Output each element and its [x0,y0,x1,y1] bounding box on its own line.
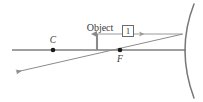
ray-diagram-figure: 1 Object C F [0,0,203,102]
object-label: Object [87,22,114,33]
point-dot-c [51,48,56,53]
focal-point-label: F [116,54,123,64]
ray-diagram-canvas: 1 Object C F [0,0,203,102]
center-of-curvature-label: C [50,35,57,45]
point-dot-f [118,48,123,53]
figure-background [0,0,203,102]
ray-marker-label: 1 [126,26,131,36]
